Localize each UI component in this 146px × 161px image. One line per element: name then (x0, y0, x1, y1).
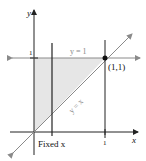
label-y-equals-1: y = 1 (70, 47, 87, 56)
point-label: (1,1) (108, 62, 125, 72)
fixed-x-label: Fixed x (38, 139, 66, 149)
y-tick-label: 1 (29, 49, 33, 57)
x-tick-label: 1 (103, 139, 107, 147)
region-diagram: y x 1 1 y = 1 y = x (1,1) Fixed x (0, 0, 146, 161)
point-1-1 (103, 56, 108, 61)
y-axis-label: y (26, 8, 31, 18)
x-axis-label: x (131, 135, 136, 145)
fixed-x-text: Fixed x (38, 139, 66, 149)
label-y-equals-x: y = x (67, 97, 85, 115)
